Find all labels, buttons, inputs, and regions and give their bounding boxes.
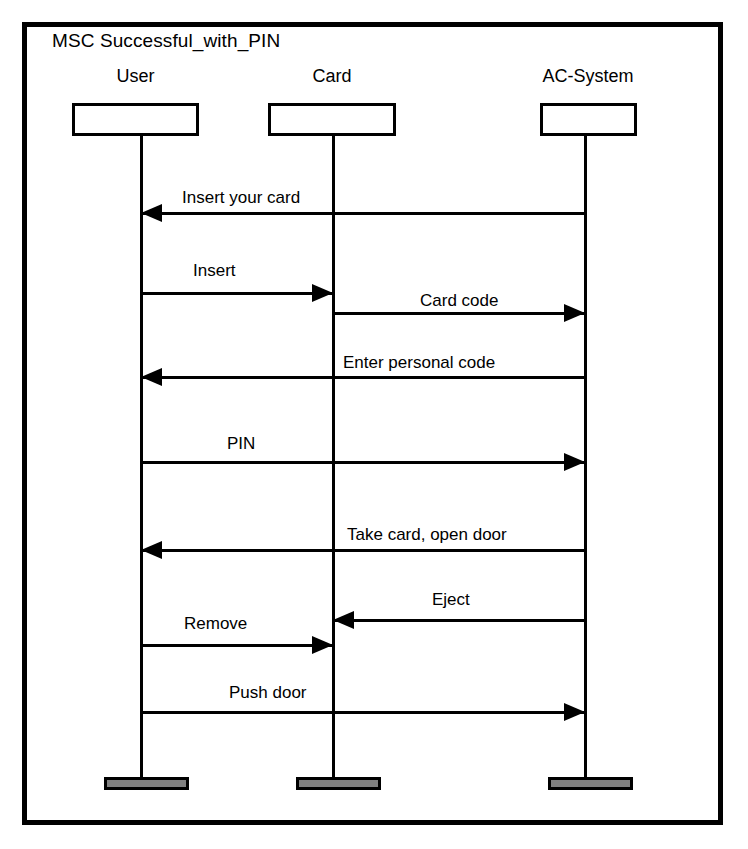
- lifeline-head-card[interactable]: [268, 103, 396, 136]
- message-label-m2: Insert: [193, 261, 236, 281]
- message-arrow-m7[interactable]: [333, 619, 585, 622]
- message-label-m4: Enter personal code: [343, 353, 495, 373]
- msc-frame: [22, 22, 723, 825]
- lifeline-label-card: Card: [268, 66, 396, 87]
- arrowhead-left-icon: [141, 204, 162, 222]
- lifeline-head-acsystem[interactable]: [540, 103, 637, 136]
- message-arrow-m4[interactable]: [141, 376, 585, 379]
- lifeline-stem-card: [332, 136, 335, 779]
- message-arrow-m2[interactable]: [141, 292, 333, 295]
- message-label-m3: Card code: [420, 291, 498, 311]
- lifeline-label-user: User: [72, 66, 199, 87]
- user-terminator: [104, 777, 189, 790]
- message-arrow-m1[interactable]: [141, 212, 585, 215]
- arrowhead-right-icon: [312, 284, 333, 302]
- message-label-m6: Take card, open door: [347, 525, 507, 545]
- arrowhead-left-icon: [141, 368, 162, 386]
- lifeline-label-acsystem: AC-System: [518, 66, 658, 87]
- lifeline-head-user[interactable]: [72, 103, 199, 136]
- msc-title: MSC Successful_with_PIN: [52, 30, 280, 52]
- arrowhead-right-icon: [564, 304, 585, 322]
- message-arrow-m5[interactable]: [141, 461, 585, 464]
- message-label-m8: Remove: [184, 614, 247, 634]
- arrowhead-left-icon: [141, 541, 162, 559]
- message-label-m7: Eject: [432, 590, 470, 610]
- arrowhead-left-icon: [333, 611, 354, 629]
- message-arrow-m6[interactable]: [141, 549, 585, 552]
- diagram-canvas: MSC Successful_with_PIN UserCardAC-Syste…: [0, 0, 748, 849]
- message-arrow-m3[interactable]: [333, 312, 585, 315]
- card-terminator: [296, 777, 381, 790]
- message-label-m1: Insert your card: [182, 188, 300, 208]
- lifeline-stem-user: [140, 136, 143, 779]
- message-arrow-m9[interactable]: [141, 711, 585, 714]
- message-arrow-m8[interactable]: [141, 644, 333, 647]
- arrowhead-right-icon: [312, 636, 333, 654]
- arrowhead-right-icon: [564, 703, 585, 721]
- message-label-m9: Push door: [229, 683, 307, 703]
- message-label-m5: PIN: [227, 434, 255, 454]
- arrowhead-right-icon: [564, 453, 585, 471]
- acsystem-terminator: [548, 777, 633, 790]
